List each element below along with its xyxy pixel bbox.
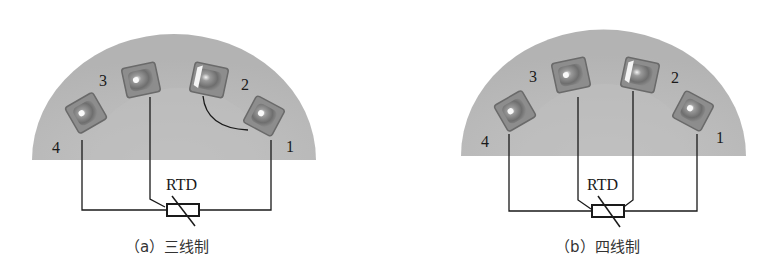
terminal-label-2: 2	[241, 77, 249, 93]
terminal-label-2: 2	[671, 70, 679, 86]
terminal-label-1: 1	[286, 139, 294, 155]
rtd-symbol	[167, 196, 199, 226]
terminal-label-3: 3	[529, 69, 537, 85]
terminal-screw-3	[551, 57, 590, 93]
terminal-screw-2	[620, 57, 659, 93]
figure-three-wire: 3 2 4 1 RTD （a）三线制	[0, 0, 385, 279]
rtd-label: RTD	[166, 177, 197, 193]
rtd-label: RTD	[587, 177, 618, 193]
terminal-label-4: 4	[481, 134, 489, 150]
terminal-label-3: 3	[99, 73, 107, 89]
terminal-label-4: 4	[52, 140, 60, 156]
terminal-label-1: 1	[716, 130, 724, 146]
figure-four-wire: 3 2 4 1 RTD （b）四线制	[385, 0, 770, 279]
terminal-screw-2	[189, 62, 228, 98]
figure-caption-b: （b）四线制	[555, 240, 640, 255]
figure-caption-a: （a）三线制	[125, 240, 209, 255]
rtd-symbol	[592, 196, 624, 227]
terminal-screw-3	[121, 62, 160, 98]
